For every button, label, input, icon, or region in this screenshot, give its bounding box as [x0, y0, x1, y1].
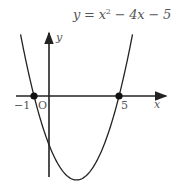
y-axis-label: y — [56, 31, 62, 44]
equation-label: y = x2 − 4x − 5 — [73, 7, 171, 22]
plot-canvas — [0, 0, 174, 189]
root-point-neg1 — [30, 92, 37, 99]
x-axis-label: x — [154, 98, 160, 111]
tick-label-neg1: −1 — [14, 99, 30, 112]
tick-label-5: 5 — [121, 99, 128, 112]
origin-label: O — [38, 99, 47, 112]
